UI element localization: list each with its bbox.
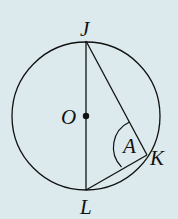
- circle-diagram: J O A K L: [0, 0, 178, 219]
- label-k: K: [149, 146, 165, 170]
- chord-jk: [86, 41, 147, 155]
- label-a: A: [121, 134, 136, 158]
- label-l: L: [79, 195, 92, 219]
- center-point-o: [83, 113, 89, 119]
- label-o: O: [61, 105, 76, 129]
- label-j: J: [80, 17, 91, 41]
